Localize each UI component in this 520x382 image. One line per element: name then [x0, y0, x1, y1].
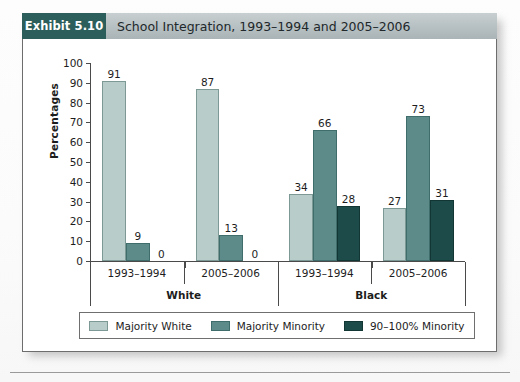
bar-slot: 31 [430, 63, 454, 261]
bar[interactable] [196, 89, 220, 261]
bar-supergroup: 346628277331 [278, 63, 465, 261]
x-period-label: 2005–2006 [371, 262, 465, 284]
x-period-label: 1993–1994 [90, 262, 184, 284]
bar-slot: 0 [150, 63, 174, 261]
exhibit-header: Exhibit 5.10 School Integration, 1993–19… [22, 13, 497, 39]
bar-value-label: 87 [201, 76, 214, 88]
bar-slot: 34 [289, 63, 313, 261]
x-group-label: Black [278, 284, 466, 306]
x-axis-period-labels: 1993–19942005–20061993–19942005–2006 [90, 262, 465, 284]
x-period-label: 1993–1994 [278, 262, 372, 284]
bar-cluster: 277331 [383, 63, 454, 261]
bar-value-label: 0 [252, 248, 259, 260]
bar-value-label: 34 [294, 181, 307, 193]
legend-swatch [211, 321, 230, 331]
exhibit-number-badge: Exhibit 5.10 [22, 13, 106, 39]
bar-slot: 91 [102, 63, 126, 261]
legend-item[interactable]: Majority Minority [211, 320, 325, 332]
bar[interactable] [337, 206, 361, 261]
bar-cluster: 87130 [196, 63, 267, 261]
page-bottom-rule [10, 372, 510, 373]
bar-slot: 27 [383, 63, 407, 261]
plot-area: 1009080706050403020100 91908713034662827… [90, 63, 465, 262]
x-axis-group-labels: WhiteBlack [90, 284, 465, 306]
bar[interactable] [126, 243, 150, 261]
bar-subgroup: 87130 [185, 63, 279, 261]
bar-subgroup: 277331 [372, 63, 466, 261]
bar[interactable] [289, 194, 313, 261]
chart-legend: Majority WhiteMajority Minority90–100% M… [79, 312, 475, 339]
bar[interactable] [406, 116, 430, 261]
bar-cluster: 346628 [289, 63, 360, 261]
legend-label: Majority Minority [237, 320, 325, 332]
bar-slot: 28 [337, 63, 361, 261]
bar-value-label: 9 [134, 230, 141, 242]
legend-item[interactable]: Majority White [89, 320, 191, 332]
legend-label: Majority White [115, 320, 191, 332]
bar-value-label: 27 [388, 195, 401, 207]
bar[interactable] [430, 200, 454, 261]
bar-value-label: 13 [225, 222, 238, 234]
y-tick-label: 60 [70, 136, 83, 148]
bar-value-label: 28 [342, 193, 355, 205]
legend-swatch [89, 321, 108, 331]
y-tick-label: 0 [76, 255, 83, 267]
bar-slot: 9 [126, 63, 150, 261]
bar-value-label: 31 [435, 187, 448, 199]
x-period-label: 2005–2006 [184, 262, 278, 284]
y-tick-label: 10 [70, 235, 83, 247]
bar-slot: 73 [406, 63, 430, 261]
bar-slot: 13 [219, 63, 243, 261]
y-tick-label: 40 [70, 176, 83, 188]
bar[interactable] [219, 235, 243, 261]
bar-subgroup: 346628 [278, 63, 372, 261]
bar-groups: 919087130346628277331 [91, 63, 465, 261]
legend-swatch [344, 321, 363, 331]
bar[interactable] [313, 130, 337, 261]
y-axis-label: Percentages [48, 83, 60, 159]
y-tick-label: 100 [63, 57, 83, 69]
y-tick-label: 90 [70, 77, 83, 89]
bar[interactable] [383, 208, 407, 261]
y-tick-label: 50 [70, 156, 83, 168]
legend-item[interactable]: 90–100% Minority [344, 320, 465, 332]
x-group-label: White [90, 284, 278, 306]
bar-value-label: 73 [412, 103, 425, 115]
bar-value-label: 0 [158, 248, 165, 260]
y-tick-label: 20 [70, 215, 83, 227]
x-axis-divider [465, 262, 466, 306]
bar-slot: 87 [196, 63, 220, 261]
bar-value-label: 91 [107, 68, 120, 80]
chart-area: Percentages 1009080706050403020100 91908… [22, 39, 497, 352]
bar-value-label: 66 [318, 117, 331, 129]
bar[interactable] [102, 81, 126, 261]
y-tick-label: 80 [70, 97, 83, 109]
bar-slot: 66 [313, 63, 337, 261]
y-tick-label: 30 [70, 196, 83, 208]
exhibit-title: School Integration, 1993–1994 and 2005–2… [106, 13, 497, 39]
y-tick-label: 70 [70, 116, 83, 128]
bar-slot: 0 [243, 63, 267, 261]
bar-supergroup: 919087130 [91, 63, 278, 261]
bar-subgroup: 9190 [91, 63, 185, 261]
bar-cluster: 9190 [102, 63, 173, 261]
legend-label: 90–100% Minority [370, 320, 465, 332]
